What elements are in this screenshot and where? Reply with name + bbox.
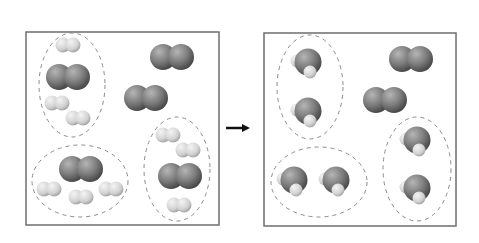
h2-molecule-icon xyxy=(69,190,94,205)
h2-molecule-icon xyxy=(176,143,201,158)
reactants-box xyxy=(26,32,219,225)
o2-molecule-icon xyxy=(150,44,194,70)
h2-molecule-icon xyxy=(99,182,124,197)
reaction-diagram xyxy=(0,0,479,243)
h2-molecule-icon xyxy=(66,111,91,126)
h2-molecule-icon xyxy=(37,182,62,197)
h2-molecule-icon xyxy=(167,198,192,213)
h2-molecule-icon xyxy=(56,38,81,53)
h2-molecule-icon xyxy=(156,128,181,143)
products-box xyxy=(264,33,456,226)
o2-molecule-icon xyxy=(363,87,407,113)
o2-molecule-icon xyxy=(124,85,168,111)
o2-molecule-icon xyxy=(59,156,103,182)
o2-molecule-icon xyxy=(158,163,202,189)
h2-molecule-icon xyxy=(45,96,70,111)
o2-molecule-icon xyxy=(46,64,90,90)
o2-molecule-icon xyxy=(389,46,433,72)
